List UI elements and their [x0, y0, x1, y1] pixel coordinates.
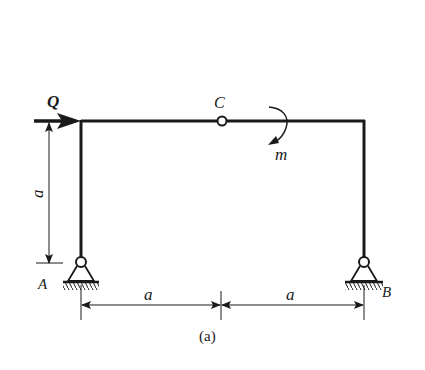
force-label: Q: [47, 92, 59, 111]
support-b: B: [345, 257, 391, 300]
pin-icon: [359, 257, 369, 267]
hinge-label: C: [214, 94, 225, 111]
support-a: A: [37, 257, 99, 292]
support-a-label: A: [37, 276, 48, 292]
dimension-height-label: a: [28, 190, 47, 199]
frame-diagram: Q C m A B a a a: [0, 0, 425, 370]
hinge-icon: [218, 117, 227, 126]
support-b-label: B: [382, 284, 391, 300]
dimension-height: a: [28, 123, 63, 263]
dimension-span: a a: [81, 285, 364, 320]
moment-arc-icon: [269, 107, 287, 142]
frame-structure: [81, 120, 365, 257]
moment-m: m: [268, 107, 287, 164]
figure-caption: (a): [199, 328, 216, 345]
dimension-span-right-label: a: [286, 285, 295, 304]
dimension-span-left-label: a: [144, 285, 153, 304]
force-q: Q: [34, 92, 81, 129]
pin-icon: [76, 257, 86, 267]
moment-label: m: [275, 145, 287, 164]
